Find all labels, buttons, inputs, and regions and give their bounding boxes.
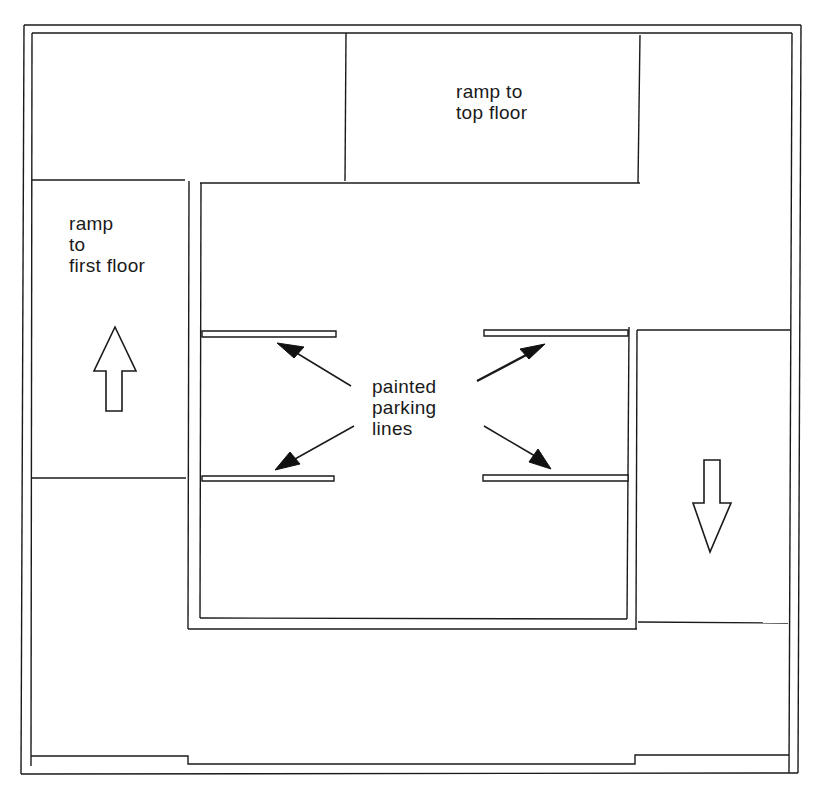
ramp-to-top-floor-label: ramp to top floor — [456, 81, 527, 123]
pointer-arrow-bottom-right — [484, 426, 551, 469]
down-arrow-icon — [693, 460, 731, 552]
parking-line-bottom-left — [202, 476, 334, 481]
parking-line-top-right — [484, 330, 628, 336]
ramp-to-first-floor-label: ramp to first floor — [69, 213, 145, 276]
parking-line-bottom-right — [483, 475, 628, 481]
pointer-arrow-top-left — [277, 343, 351, 386]
parking-line-top-left — [202, 331, 336, 337]
up-arrow-icon — [94, 327, 136, 411]
pointer-arrow-bottom-left — [275, 426, 354, 470]
painted-parking-lines-label: painted parking lines — [372, 376, 436, 439]
pointer-arrow-top-right — [477, 344, 545, 381]
ramp-top-floor-zone — [200, 33, 640, 183]
